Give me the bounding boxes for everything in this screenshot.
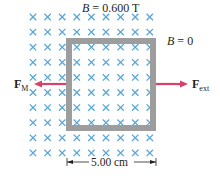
field-cross-icon [44, 104, 50, 110]
force-subscript: ext [199, 84, 209, 93]
field-cross-icon [103, 29, 109, 35]
field-cross-icon [88, 89, 94, 95]
field-cross-icon [30, 44, 36, 50]
field-cross-icon [117, 74, 123, 80]
field-cross-icon [103, 120, 109, 126]
field-cross-icon [88, 44, 94, 50]
diagram-canvas [0, 0, 220, 176]
field-cross-icon [74, 14, 80, 20]
magnetic-force-label: FM [14, 78, 28, 95]
field-cross-icon [44, 89, 50, 95]
field-cross-icon [74, 44, 80, 50]
field-cross-icon [44, 120, 50, 126]
field-cross-icon [103, 104, 109, 110]
field-cross-icon [30, 14, 36, 20]
field-cross-icon [117, 120, 123, 126]
field-cross-icon [59, 74, 65, 80]
field-cross-icon [30, 74, 36, 80]
field-cross-icon [88, 135, 94, 141]
field-cross-icon [44, 14, 50, 20]
field-cross-icon [30, 104, 36, 110]
equals-sign: = [174, 34, 187, 48]
force-magnetic-arrow [34, 81, 66, 88]
field-cross-icon [74, 104, 80, 110]
force-external-arrow [156, 81, 188, 88]
field-cross-icon [117, 44, 123, 50]
field-cross-icon [88, 120, 94, 126]
field-cross-icon [88, 74, 94, 80]
field-cross-icon [59, 135, 65, 141]
field-cross-icon [30, 150, 36, 156]
field-cross-icon [117, 89, 123, 95]
side-length-value: 5.00 cm [91, 156, 128, 168]
field-cross-icon [30, 89, 36, 95]
field-cross-icon [30, 120, 36, 126]
field-cross-icon [59, 89, 65, 95]
field-cross-icon [30, 135, 36, 141]
field-cross-icon [44, 29, 50, 35]
field-cross-icon [59, 59, 65, 65]
field-cross-icon [117, 135, 123, 141]
field-cross-icon [132, 74, 138, 80]
field-cross-icon [74, 74, 80, 80]
field-cross-icon [44, 150, 50, 156]
field-cross-icon [44, 44, 50, 50]
field-cross-icon [88, 29, 94, 35]
field-cross-icon [74, 135, 80, 141]
field-cross-icon [132, 120, 138, 126]
field-cross-icon [74, 120, 80, 126]
field-cross-icon [103, 59, 109, 65]
field-cross-icon [132, 44, 138, 50]
field-cross-icon [132, 29, 138, 35]
field-cross-icon [59, 104, 65, 110]
field-cross-icon [147, 29, 153, 35]
conducting-loop [69, 41, 153, 128]
field-cross-icon [88, 59, 94, 65]
field-value: 0.600 T [102, 1, 139, 15]
field-cross-icon [88, 104, 94, 110]
field-cross-icon [147, 150, 153, 156]
side-length-label: 5.00 cm [91, 156, 128, 168]
field-cross-icon [103, 44, 109, 50]
field-cross-icon [132, 150, 138, 156]
field-cross-icon [147, 135, 153, 141]
external-force-label: Fext [192, 78, 209, 95]
force-subscript: M [21, 84, 28, 93]
field-cross-icon [59, 44, 65, 50]
field-strength-label: B = 0.600 T [82, 2, 139, 14]
field-cross-icon [59, 29, 65, 35]
equals-sign: = [89, 1, 102, 15]
field-cross-icon [59, 14, 65, 20]
field-cross-icon [74, 59, 80, 65]
field-value: 0 [187, 34, 193, 48]
field-cross-icon [147, 14, 153, 20]
field-cross-icon [132, 89, 138, 95]
field-cross-icon [132, 59, 138, 65]
field-cross-icon [117, 29, 123, 35]
field-cross-icon [117, 59, 123, 65]
field-cross-icon [74, 150, 80, 156]
magnetic-loop-diagram: B = 0.600 T B = 0 FM Fext 5.00 cm [0, 0, 220, 176]
field-cross-icon [132, 135, 138, 141]
field-cross-icon [74, 89, 80, 95]
field-cross-icon [74, 29, 80, 35]
field-cross-icon [30, 29, 36, 35]
field-cross-icon [132, 104, 138, 110]
zero-field-label: B = 0 [167, 35, 193, 47]
field-cross-icon [103, 89, 109, 95]
field-cross-icon [44, 74, 50, 80]
field-cross-icon [30, 59, 36, 65]
field-cross-icon [44, 59, 50, 65]
field-cross-icon [103, 135, 109, 141]
field-cross-icon [103, 74, 109, 80]
field-cross-icon [59, 150, 65, 156]
field-cross-icon [59, 120, 65, 126]
field-cross-icon [44, 135, 50, 141]
field-cross-icon [117, 104, 123, 110]
